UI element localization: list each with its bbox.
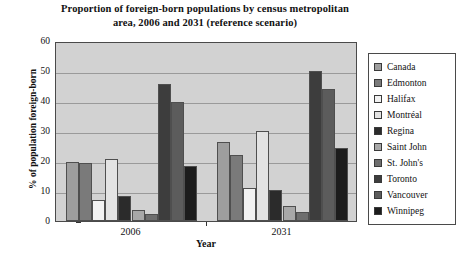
bar-2031-saint-john	[283, 206, 296, 221]
legend-item-vancouver[interactable]: Vancouver	[374, 187, 451, 203]
chart-root: Proportion of foreign-born populations b…	[0, 0, 464, 260]
x-axis-title: Year	[176, 238, 236, 249]
legend-swatch-icon	[374, 63, 382, 71]
bar-2031-toronto	[309, 71, 322, 221]
bar-2006-canada	[66, 162, 79, 221]
legend-item-montr-al[interactable]: Montréal	[374, 107, 451, 123]
legend-swatch-icon	[374, 207, 382, 215]
bar-2006-halifax	[92, 200, 105, 221]
y-tick-mark	[76, 222, 81, 223]
bar-2031-edmonton	[230, 155, 243, 221]
y-tick-label-30: 30	[28, 126, 50, 136]
legend-swatch-icon	[374, 111, 382, 119]
y-tick-label-50: 50	[28, 66, 50, 76]
legend-swatch-icon	[374, 175, 382, 183]
bar-2031-halifax	[243, 188, 256, 221]
legend-label: Canada	[387, 62, 416, 72]
bar-2006-vancouver	[171, 102, 184, 221]
legend-label: Edmonton	[387, 78, 427, 88]
x-group-label-2031: 2031	[252, 226, 312, 237]
bar-2031-regina	[269, 190, 282, 221]
bar-2031-canada	[217, 142, 230, 221]
legend-item-halifax[interactable]: Halifax	[374, 91, 451, 107]
legend-label: St. John's	[387, 158, 423, 168]
legend-swatch-icon	[374, 143, 382, 151]
y-tick-label-40: 40	[28, 96, 50, 106]
y-tick-label-10: 10	[28, 186, 50, 196]
y-tick-label-0: 0	[28, 216, 50, 226]
legend-swatch-icon	[374, 159, 382, 167]
plot-area	[55, 42, 357, 222]
legend-item-canada[interactable]: Canada	[374, 59, 451, 75]
bar-2031-montr-al	[256, 131, 269, 221]
legend-label: Winnipeg	[387, 206, 424, 216]
y-tick-label-20: 20	[28, 156, 50, 166]
legend-item-regina[interactable]: Regina	[374, 123, 451, 139]
legend-item-saint-john[interactable]: Saint John	[374, 139, 451, 155]
legend-label: Vancouver	[387, 190, 428, 200]
legend-item-st-john-s[interactable]: St. John's	[374, 155, 451, 171]
x-group-label-2006: 2006	[101, 226, 161, 237]
bar-2006-st-john-s	[145, 214, 158, 221]
chart-title: Proportion of foreign-born populations b…	[40, 2, 370, 30]
legend-swatch-icon	[374, 127, 382, 135]
legend-item-toronto[interactable]: Toronto	[374, 171, 451, 187]
bar-2031-vancouver	[322, 89, 335, 221]
bar-2006-winnipeg	[184, 166, 197, 221]
legend-swatch-icon	[374, 191, 382, 199]
legend-label: Montréal	[387, 110, 422, 120]
bar-2006-edmonton	[79, 163, 92, 221]
legend-label: Regina	[387, 126, 414, 136]
y-tick-label-60: 60	[28, 36, 50, 46]
legend-item-edmonton[interactable]: Edmonton	[374, 75, 451, 91]
y-axis-ticks: 0102030405060	[26, 0, 50, 260]
chart-legend: CanadaEdmontonHalifaxMontréalReginaSaint…	[368, 53, 456, 225]
legend-label: Toronto	[387, 174, 417, 184]
bar-2006-saint-john	[132, 210, 145, 221]
x-tick-mark	[206, 222, 207, 226]
legend-label: Halifax	[387, 94, 416, 104]
bar-2006-regina	[118, 196, 131, 222]
legend-item-winnipeg[interactable]: Winnipeg	[374, 203, 451, 219]
legend-swatch-icon	[374, 95, 382, 103]
chart-title-line1: Proportion of foreign-born populations b…	[40, 2, 370, 16]
chart-title-line2: area, 2006 and 2031 (reference scenario)	[40, 16, 370, 30]
bar-2006-toronto	[158, 84, 171, 221]
legend-label: Saint John	[387, 142, 427, 152]
bar-2031-winnipeg	[335, 148, 348, 221]
bar-2006-montr-al	[105, 159, 118, 221]
legend-swatch-icon	[374, 79, 382, 87]
bar-2031-st-john-s	[296, 212, 309, 221]
